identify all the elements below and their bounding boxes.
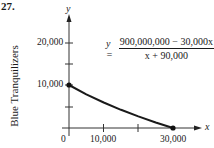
function-curve [69, 85, 173, 128]
y-tick-label-20000: 20,000 [37, 37, 63, 47]
equation-denominator: x + 90,000 [145, 49, 188, 61]
y-axis-arrow-icon [67, 14, 72, 22]
x-tick-label-30000: 30,000 [160, 134, 186, 144]
y-tick-label-10000: 10,000 [37, 79, 63, 89]
end-point [170, 125, 175, 130]
equation-lhs: y = [106, 38, 116, 60]
start-point [66, 82, 71, 87]
x-axis-arrow-icon [194, 126, 202, 131]
y-axis-title: Blue Tranquilizers [8, 45, 20, 127]
x-axis-variable: x [205, 121, 209, 132]
x-tick-label-0: 0 [61, 134, 66, 144]
equation: y = 900,000,000 − 30,000x x + 90,000 [106, 36, 214, 61]
y-axis-variable: y [66, 3, 70, 14]
equation-fraction: 900,000,000 − 30,000x x + 90,000 [119, 36, 214, 61]
chart-plot [0, 0, 214, 148]
x-tick-label-10000: 10,000 [90, 134, 116, 144]
equation-numerator: 900,000,000 − 30,000x [119, 36, 214, 49]
